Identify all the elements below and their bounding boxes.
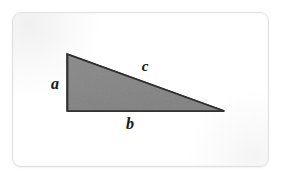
side-label-c: c	[142, 59, 149, 74]
side-label-b: b	[126, 116, 134, 132]
triangle-graphic	[0, 0, 281, 182]
figure-canvas: a b c	[0, 0, 281, 182]
side-label-a: a	[51, 76, 59, 92]
